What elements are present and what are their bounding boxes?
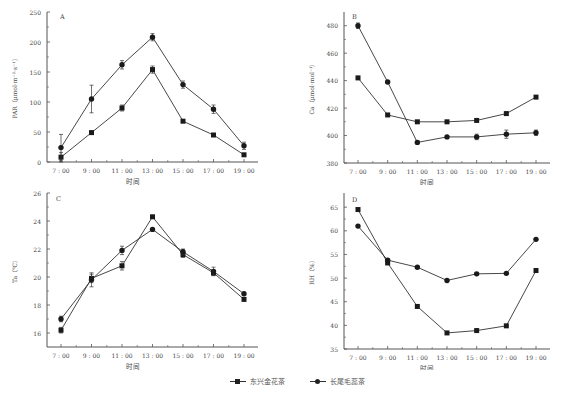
x-tick-label: 17 : 00 [496, 168, 517, 175]
x-axis-label: 时间 [420, 364, 434, 370]
panel-label: B [352, 13, 357, 21]
x-tick-label: 19 : 00 [233, 352, 254, 359]
panel-c: 1618202224267 : 009 : 0011 : 0013 : 0015… [0, 185, 282, 370]
legend-label: 长尾毛蕊茶 [330, 376, 365, 386]
square-marker-icon [474, 118, 479, 123]
x-tick-label: 15 : 00 [466, 354, 487, 361]
x-tick-label: 7 : 00 [52, 352, 69, 359]
square-marker-icon [356, 207, 361, 212]
x-axis-label: 时间 [126, 177, 140, 185]
square-marker-icon [474, 328, 479, 333]
panel-label: D [352, 196, 357, 204]
x-tick-label: 7 : 00 [349, 354, 366, 361]
x-axis-label: 时间 [420, 178, 434, 185]
circle-marker-icon [355, 23, 360, 28]
y-tick-label: 50 [33, 129, 41, 136]
square-marker-icon [242, 297, 247, 302]
square-marker-icon [242, 152, 247, 157]
circle-marker-icon [119, 62, 124, 67]
x-tick-label: 11 : 00 [111, 167, 132, 174]
circle-marker-icon [385, 79, 390, 84]
circle-marker-icon [58, 145, 63, 150]
square-marker-icon [181, 119, 186, 124]
circle-marker-icon [415, 265, 420, 270]
y-tick-label: 45 [330, 298, 338, 305]
x-tick-label: 17 : 00 [203, 167, 224, 174]
square-marker-icon [415, 304, 420, 309]
x-tick-label: 19 : 00 [525, 168, 546, 175]
series-line [358, 210, 536, 333]
x-tick-label: 9 : 00 [379, 168, 396, 175]
panel-label: A [59, 13, 65, 21]
chart-d-svg: 354045505560657 : 009 : 0011 : 0013 : 00… [282, 185, 564, 370]
x-tick-label: 17 : 00 [496, 354, 517, 361]
square-marker-icon [445, 330, 450, 335]
y-tick-label: 150 [30, 69, 42, 76]
square-marker-icon [59, 328, 64, 333]
y-tick-label: 460 [327, 50, 339, 57]
circle-marker-icon [474, 271, 479, 276]
x-tick-label: 15 : 00 [172, 167, 193, 174]
x-tick-label: 19 : 00 [525, 354, 546, 361]
x-tick-label: 11 : 00 [111, 352, 132, 359]
square-marker-icon [534, 268, 539, 273]
circle-marker-icon [211, 269, 216, 274]
x-tick-label: 9 : 00 [83, 167, 100, 174]
x-axis-label: 时间 [126, 362, 140, 370]
y-tick-label: 400 [327, 132, 339, 139]
y-axis-label: Ta（℃） [11, 257, 18, 283]
circle-marker-icon [89, 96, 94, 101]
y-tick-label: 60 [330, 227, 338, 234]
square-marker-icon [504, 323, 509, 328]
square-marker-icon [89, 130, 94, 135]
y-axis-label: Ca（μmol·mol⁻¹） [308, 61, 316, 115]
series-line [61, 37, 244, 147]
circle-marker-icon [150, 35, 155, 40]
series-line [358, 26, 536, 143]
circle-marker-icon [415, 140, 420, 145]
square-marker-icon [120, 263, 125, 268]
square-marker-icon [356, 75, 361, 80]
y-axis-label: RH（%） [308, 257, 315, 284]
y-tick-label: 26 [33, 190, 41, 197]
x-tick-label: 9 : 00 [83, 352, 100, 359]
x-tick-label: 15 : 00 [172, 352, 193, 359]
y-tick-label: 24 [33, 218, 41, 225]
panel-b: 3804004204404604807 : 009 : 0011 : 0013 … [282, 0, 564, 185]
circle-marker-icon [444, 134, 449, 139]
square-marker-icon [445, 119, 450, 124]
legend: 东兴金花茶 长尾毛蕊茶 [0, 372, 564, 390]
circle-marker-icon [355, 223, 360, 228]
y-tick-label: 40 [330, 322, 338, 329]
y-axis-label: PAR（μmol·m⁻²·s⁻¹） [11, 55, 19, 118]
panel-a: 0501001502002507 : 009 : 0011 : 0013 : 0… [0, 0, 282, 185]
y-tick-label: 35 [330, 346, 338, 353]
circle-marker-icon [310, 381, 326, 382]
y-tick-label: 200 [30, 39, 42, 46]
legend-item-square: 东兴金花茶 [230, 376, 285, 386]
y-tick-label: 20 [33, 274, 41, 281]
y-tick-label: 100 [30, 99, 42, 106]
square-marker-icon [504, 111, 509, 116]
y-tick-label: 16 [33, 330, 41, 337]
square-marker-icon [120, 106, 125, 111]
y-tick-label: 22 [33, 246, 41, 253]
circle-marker-icon [241, 291, 246, 296]
x-tick-label: 13 : 00 [142, 167, 163, 174]
square-marker-icon [385, 112, 390, 117]
circle-marker-icon [211, 107, 216, 112]
square-marker-icon [211, 133, 216, 138]
square-marker-icon [230, 381, 246, 382]
x-tick-label: 13 : 00 [436, 354, 457, 361]
circle-marker-icon [533, 237, 538, 242]
circle-marker-icon [474, 134, 479, 139]
chart-c-svg: 1618202224267 : 009 : 0011 : 0013 : 0015… [0, 185, 282, 370]
y-tick-label: 18 [33, 302, 41, 309]
y-tick-label: 0 [37, 159, 41, 166]
x-tick-label: 11 : 00 [407, 354, 428, 361]
x-tick-label: 9 : 00 [379, 354, 396, 361]
y-tick-label: 250 [30, 9, 42, 16]
chart-b-svg: 3804004204404604807 : 009 : 0011 : 0013 … [282, 0, 564, 185]
circle-marker-icon [385, 257, 390, 262]
chart-a-svg: 0501001502002507 : 009 : 0011 : 0013 : 0… [0, 0, 282, 185]
